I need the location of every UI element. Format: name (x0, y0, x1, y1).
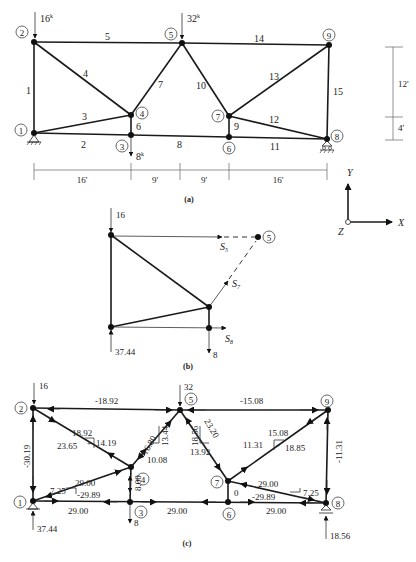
svg-text:9: 9 (325, 397, 330, 407)
node-label-c-9: 9 (321, 395, 333, 407)
s7-arrow (209, 281, 228, 307)
component-box-m12 (290, 488, 300, 492)
force-label-m14: -15.08 (240, 396, 264, 406)
force-label-m4: 23.65 (57, 441, 78, 451)
svg-text:1: 1 (19, 126, 24, 136)
member-label-6: 6 (136, 121, 141, 132)
pin-support-icon (27, 135, 41, 145)
force-label-m4-y: 14.19 (96, 438, 117, 448)
svg-text:2: 2 (20, 28, 25, 38)
load-label-c-node5: 32 (184, 382, 193, 392)
node-label-6: 6 (223, 142, 235, 154)
member-label-5: 5 (105, 31, 110, 42)
truss-figure: 1 2 3 4 5 6 7 8 9 10 11 12 13 14 15 1 2 … (0, 0, 416, 562)
node-label-9: 9 (323, 29, 335, 41)
force-label-m5: -18.92 (95, 396, 118, 406)
force-label-m3: -29.89 (77, 490, 101, 500)
force-label-m10: 23.20 (202, 417, 221, 440)
member-15 (327, 45, 329, 139)
node-label-c-5: 5 (185, 393, 197, 405)
svg-text:7: 7 (215, 478, 220, 488)
node-label-3: 3 (116, 140, 128, 152)
member-8 (131, 135, 229, 137)
svg-text:9': 9' (201, 175, 208, 185)
s5-arrow (111, 236, 222, 237)
node-label-c-3: 3 (135, 506, 147, 518)
reaction-label-c-node1: 37.44 (37, 524, 58, 534)
member-label-9: 9 (234, 121, 239, 132)
load-label-b-top: 16 (116, 210, 126, 220)
force-label-m7-x: 10.08 (147, 455, 168, 465)
member-label-13: 13 (269, 71, 279, 82)
figure-c: 1 2 3 4 5 6 7 8 9 16 32 8 37.44 18.56 (14, 381, 351, 548)
svg-text:2: 2 (19, 404, 24, 414)
member-2 (34, 133, 131, 135)
force-label-m7-y: 13.44 (160, 425, 170, 446)
member-5 (34, 42, 182, 43)
force-label-m12-x: 29.00 (258, 479, 279, 489)
load-label-node5: 32k (187, 13, 200, 24)
svg-text:4': 4' (398, 123, 405, 133)
member-label-10: 10 (196, 80, 206, 91)
force-label-m11: 29.00 (266, 506, 287, 516)
member-label-3: 3 (82, 111, 87, 122)
member-label-4: 4 (83, 68, 88, 79)
member-13 (229, 45, 329, 116)
force-label-m13: 18.85 (285, 443, 306, 453)
member-label-11: 11 (270, 141, 280, 152)
y-axis-label: Y (347, 167, 354, 178)
svg-text:5: 5 (169, 30, 174, 40)
svg-text:7: 7 (216, 112, 221, 122)
caption-c: (c) (183, 539, 192, 548)
figure-b: 5 16 37.44 8 S5 S7 S8 (b) (108, 208, 275, 371)
force-label-m10-x: 13.92 (190, 447, 210, 457)
node-label-c-8: 8 (332, 497, 344, 509)
force-label-m15: -11.31 (334, 440, 344, 463)
s5-label: S5 (220, 241, 228, 253)
x-axis-label: X (397, 217, 405, 228)
node-label-8: 8 (331, 130, 343, 142)
force-label-m4-x: 18.92 (72, 428, 92, 438)
force-label-m12-y: 7.25 (303, 488, 319, 498)
svg-text:12': 12' (398, 79, 409, 89)
force-label-m12: -29.89 (252, 492, 276, 502)
z-axis-label: Z (338, 226, 344, 237)
svg-text:3: 3 (139, 508, 144, 518)
member-label-8: 8 (177, 139, 182, 150)
horizontal-dimensions: 16' 9' 9' 16' (34, 163, 327, 185)
sign-m4: + (87, 440, 91, 448)
force-label-m8: 29.00 (167, 506, 188, 516)
sign-m13: + (276, 442, 280, 450)
caption-a: (a) (184, 195, 194, 204)
load-label-b-bottom: 8 (213, 350, 218, 360)
svg-text:6: 6 (227, 144, 232, 154)
node-label-4: 4 (136, 107, 148, 119)
svg-text:4: 4 (140, 109, 145, 119)
svg-text:5: 5 (267, 233, 272, 243)
force-label-m3-y: 7.25 (50, 486, 66, 496)
force-label-m13-x: 15.08 (268, 428, 289, 438)
load-label-c-node3: 8 (134, 518, 139, 528)
coordinate-axes: Y X Z (338, 167, 405, 237)
force-label-m10-y: 18.56 (190, 425, 200, 446)
node-label-1: 1 (15, 124, 27, 136)
member-label-2: 2 (81, 139, 86, 150)
force-label-m2: 29.00 (68, 506, 89, 516)
member-label-15: 15 (333, 86, 343, 97)
svg-text:8: 8 (336, 499, 341, 509)
node-label-5-b: 5 (263, 231, 275, 243)
node-label-5: 5 (165, 28, 177, 40)
force-label-m1: -30.19 (22, 444, 32, 468)
s7-label: S7 (232, 278, 241, 290)
node-label-c-1: 1 (14, 496, 26, 508)
member-label-7: 7 (158, 79, 163, 90)
caption-b: (b) (183, 362, 193, 371)
svg-text:9: 9 (327, 31, 332, 41)
force-label-m3-x: 29.00 (75, 478, 96, 488)
reaction-label-b: 37.44 (115, 347, 136, 357)
member-label-1: 1 (26, 85, 31, 96)
node-label-c-7: 7 (211, 476, 223, 488)
z-axis-icon (346, 220, 351, 225)
vertical-dimensions: 12' 4' (385, 47, 409, 140)
member-label-12: 12 (269, 114, 279, 125)
